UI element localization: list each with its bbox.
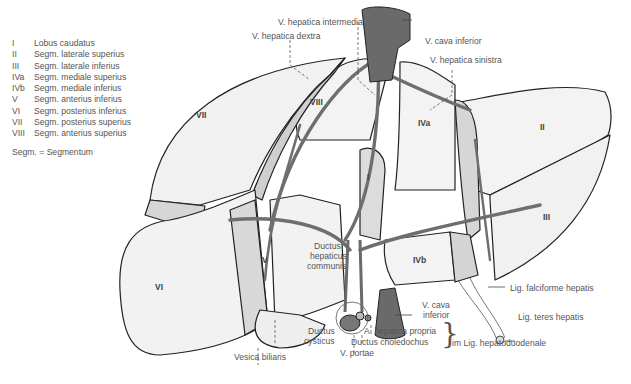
label-ductus-choledochus: Ductus choledochus bbox=[351, 337, 428, 347]
segment-label-iii: III bbox=[543, 212, 550, 222]
label-ductus-cysticus-2: cysticus bbox=[304, 336, 335, 346]
label-v-hepatica-dextra: V. hepatica dextra bbox=[252, 31, 320, 41]
segment-label-viii: VIII bbox=[310, 97, 323, 107]
segment-label-v: V bbox=[262, 255, 268, 265]
segment-label-i: I bbox=[367, 172, 369, 182]
label-lig-falciforme: Lig. falciforme hepatis bbox=[510, 283, 594, 293]
label-v-hepatica-sinistra: V. hepatica sinistra bbox=[430, 55, 502, 65]
segment-label-iva: IVa bbox=[418, 118, 430, 128]
label-ductus-hepaticus-communis-2: hepaticus bbox=[310, 251, 347, 261]
legend-note: Segm. = Segmentum bbox=[12, 147, 131, 158]
legend-row: ILobus caudatus bbox=[12, 38, 131, 49]
label-im-lig-hepatoduodenale: im Lig. hepatoduodenale bbox=[452, 338, 546, 348]
legend-row: VIIISegm. anterius superius bbox=[12, 128, 131, 139]
label-v-hepatica-intermedia: V. hepatica intermedia bbox=[278, 17, 363, 27]
legend-row: IIISegm. laterale inferius bbox=[12, 61, 131, 72]
legend-row: IVbSegm. mediale inferius bbox=[12, 83, 131, 94]
segment-label-vi: VI bbox=[155, 282, 163, 292]
label-v-cava-inferior-bottom-1: V. cava bbox=[422, 300, 450, 310]
segment-label-ii: II bbox=[540, 122, 545, 132]
legend-row: IISegm. laterale superius bbox=[12, 49, 131, 60]
legend-row: VIISegm. posterius superius bbox=[12, 117, 131, 128]
label-vesica-biliaris: Vesica biliaris bbox=[234, 352, 286, 362]
label-a-hepatica-propria: A. hepatica propria bbox=[364, 326, 436, 336]
label-ductus-cysticus-1: Ductus bbox=[308, 326, 335, 336]
label-v-cava-inferior-top: V. cava inferior bbox=[425, 36, 482, 46]
segment-label-vii: VII bbox=[196, 110, 206, 120]
legend-row: IVaSegm. mediale superius bbox=[12, 72, 131, 83]
label-ductus-hepaticus-communis-1: Ductus bbox=[314, 241, 341, 251]
segment-legend: ILobus caudatus IISegm. laterale superiu… bbox=[12, 38, 131, 158]
label-ductus-hepaticus-communis-3: communis bbox=[307, 261, 346, 271]
legend-row: VSegm. anterius inferius bbox=[12, 94, 131, 105]
legend-row: VISegm. posterius inferius bbox=[12, 106, 131, 117]
label-lig-teres: Lig. teres hepatis bbox=[518, 312, 583, 322]
segment-label-ivb: IVb bbox=[413, 255, 426, 265]
label-v-portae: V. portae bbox=[340, 348, 374, 358]
